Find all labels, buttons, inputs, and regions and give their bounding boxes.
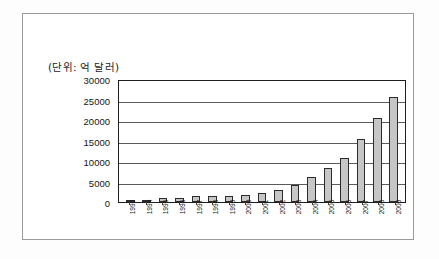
x-axis-slot: 1996 bbox=[171, 205, 188, 239]
x-axis-slot: 2005 bbox=[320, 205, 337, 239]
scanned-page: (단위: 억 달러) 30000250002000015000100005000… bbox=[0, 0, 439, 259]
x-axis-slot: 2001 bbox=[254, 205, 271, 239]
unit-caption: (단위: 억 달러) bbox=[48, 59, 119, 74]
bar-slot bbox=[254, 81, 270, 202]
bar-slot bbox=[287, 81, 303, 202]
x-axis-tick-label: 2006 bbox=[345, 200, 352, 215]
bar-slot bbox=[270, 81, 286, 202]
x-axis-tick-label: 1994 bbox=[146, 200, 153, 215]
document-frame: (단위: 억 달러) 30000250002000015000100005000… bbox=[22, 13, 414, 240]
y-axis-tick-label: 0 bbox=[105, 198, 110, 209]
bar bbox=[389, 97, 398, 202]
bar-slot bbox=[320, 81, 336, 202]
bar bbox=[324, 168, 333, 202]
x-axis-tick-label: 2000 bbox=[245, 200, 252, 215]
x-axis-slot: 1998 bbox=[204, 205, 221, 239]
bar-slot bbox=[188, 81, 204, 202]
x-axis-slot: 2007 bbox=[353, 205, 370, 239]
x-axis-tick-label: 2001 bbox=[262, 200, 269, 215]
x-axis-tick-label: 2009 bbox=[395, 200, 402, 215]
bar-series bbox=[119, 81, 405, 202]
x-axis-tick-label: 2002 bbox=[279, 200, 286, 215]
y-axis-tick-label: 10000 bbox=[84, 157, 110, 168]
bar bbox=[373, 118, 382, 202]
x-axis-tick-label: 1999 bbox=[229, 200, 236, 215]
x-axis-tick-label: 2007 bbox=[362, 200, 369, 215]
bar-slot bbox=[353, 81, 369, 202]
x-axis-labels: 1993199419951996199719981999200020012002… bbox=[118, 205, 406, 239]
x-axis-slot: 1994 bbox=[138, 205, 155, 239]
x-axis-tick-label: 1995 bbox=[162, 200, 169, 215]
x-axis-slot: 2006 bbox=[337, 205, 354, 239]
bar-slot bbox=[204, 81, 220, 202]
x-axis-slot: 1997 bbox=[187, 205, 204, 239]
bar bbox=[307, 177, 316, 202]
bar-slot bbox=[237, 81, 253, 202]
bar-slot bbox=[221, 81, 237, 202]
bar bbox=[340, 158, 349, 202]
x-axis-tick-label: 2003 bbox=[295, 200, 302, 215]
x-axis-slot: 2008 bbox=[370, 205, 387, 239]
x-axis-tick-label: 2005 bbox=[328, 200, 335, 215]
x-axis-slot: 1995 bbox=[154, 205, 171, 239]
y-axis-labels: 300002500020000150001000050000 bbox=[48, 76, 114, 207]
x-axis-tick-label: 1993 bbox=[129, 200, 136, 215]
y-axis-tick-label: 15000 bbox=[84, 136, 110, 147]
x-axis-tick-label: 1997 bbox=[196, 200, 203, 215]
x-axis-tick-label: 1998 bbox=[212, 200, 219, 215]
bar-slot bbox=[336, 81, 352, 202]
bar-chart: 300002500020000150001000050000 199319941… bbox=[48, 76, 418, 236]
x-axis-slot: 2002 bbox=[270, 205, 287, 239]
x-axis-slot: 2000 bbox=[237, 205, 254, 239]
bar-slot bbox=[369, 81, 385, 202]
bar-slot bbox=[155, 81, 171, 202]
y-axis-tick-label: 5000 bbox=[89, 177, 110, 188]
bar-slot bbox=[303, 81, 319, 202]
bar-slot bbox=[386, 81, 402, 202]
x-axis-tick-label: 1996 bbox=[179, 200, 186, 215]
plot-area bbox=[118, 80, 406, 203]
x-axis-slot: 2009 bbox=[387, 205, 404, 239]
bar-slot bbox=[122, 81, 138, 202]
bar bbox=[357, 139, 366, 202]
x-axis-tick-label: 2004 bbox=[312, 200, 319, 215]
x-axis-slot: 2004 bbox=[304, 205, 321, 239]
y-axis-tick-label: 30000 bbox=[84, 75, 110, 86]
bar-slot bbox=[138, 81, 154, 202]
y-axis-tick-label: 20000 bbox=[84, 116, 110, 127]
x-axis-tick-label: 2008 bbox=[378, 200, 385, 215]
x-axis-slot: 2003 bbox=[287, 205, 304, 239]
x-axis-slot: 1999 bbox=[221, 205, 238, 239]
x-axis-slot: 1993 bbox=[121, 205, 138, 239]
bar-slot bbox=[171, 81, 187, 202]
y-axis-tick-label: 25000 bbox=[84, 95, 110, 106]
